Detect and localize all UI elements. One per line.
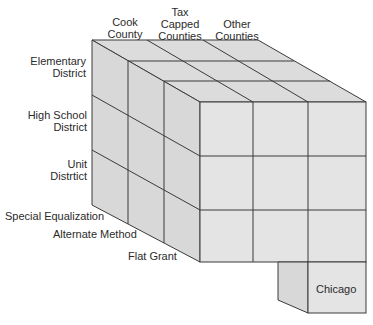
- chicago-label: Chicago: [316, 283, 356, 295]
- depth-header-flat-grant: Flat Grant: [128, 250, 177, 262]
- row-header-line: High School: [0, 109, 87, 121]
- row-header-line: Unit: [0, 158, 87, 170]
- row-header-line: Elementary: [0, 55, 86, 67]
- column-header-cook-county: Cook County: [100, 16, 150, 40]
- row-header-line: Distrtict: [0, 170, 87, 182]
- cube-front-face: [200, 102, 366, 262]
- row-header-line: District: [0, 121, 87, 133]
- column-header-line: Cook: [100, 16, 150, 28]
- column-header-tax-capped-counties: Tax Capped Counties: [150, 6, 210, 42]
- column-header-line: Counties: [207, 30, 267, 42]
- column-header-line: Other: [207, 18, 267, 30]
- row-header-high-school-district: High School District: [0, 109, 87, 133]
- row-header-elementary-district: Elementary District: [0, 55, 86, 79]
- column-header-line: Tax: [150, 6, 210, 18]
- column-header-line: County: [100, 28, 150, 40]
- column-header-line: Counties: [150, 30, 210, 42]
- row-header-unit-district: Unit Distrtict: [0, 158, 87, 182]
- depth-header-alternate-method: Alternate Method: [53, 228, 137, 240]
- chicago-block-side: [278, 262, 308, 313]
- column-header-other-counties: Other Counties: [207, 18, 267, 42]
- row-header-line: District: [0, 67, 86, 79]
- depth-header-special-equalization: Special Equalization: [5, 210, 104, 222]
- column-header-line: Capped: [150, 18, 210, 30]
